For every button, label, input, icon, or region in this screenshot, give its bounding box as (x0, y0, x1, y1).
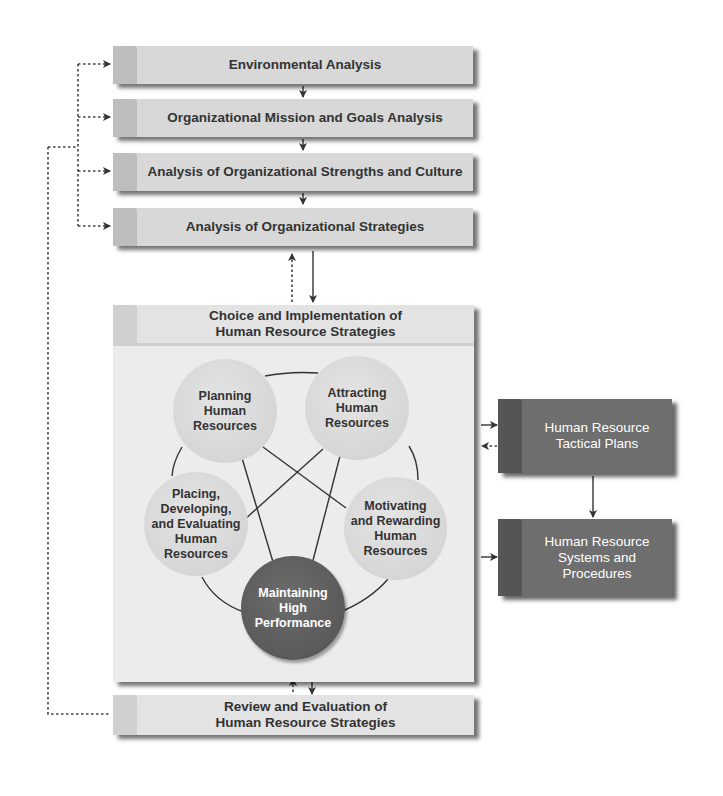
box-text: Procedures (544, 566, 649, 582)
circle-text: Maintaining (255, 586, 331, 601)
box-text: Tactical Plans (544, 436, 649, 452)
review-line1: Review and Evaluation of (215, 699, 395, 715)
circle-text: Human (351, 529, 441, 544)
circle-text: and Evaluating (152, 517, 241, 532)
circle-text: Planning (193, 389, 257, 404)
circle-text: Resources (325, 416, 389, 431)
circle-attracting-hr: Attracting Human Resources (305, 356, 409, 460)
circle-placing-developing-evaluating: Placing, Developing, and Evaluating Huma… (144, 472, 248, 576)
box-label: Human Resource Tactical Plans (522, 399, 672, 473)
circle-text: Developing, (152, 502, 241, 517)
circle-text: Human (325, 401, 389, 416)
circle-text: Performance (255, 616, 331, 631)
circle-text: Resources (152, 547, 241, 562)
circle-text: and Rewarding (351, 514, 441, 529)
circle-text: Human (152, 532, 241, 547)
circle-text: Human (193, 404, 257, 419)
circle-maintaining-high-performance: Maintaining High Performance (241, 556, 345, 660)
review-evaluation-box: Review and Evaluation of Human Resource … (113, 695, 474, 735)
box-tab (113, 695, 137, 735)
box-text: Systems and (544, 550, 649, 566)
circle-text: Resources (193, 419, 257, 434)
circle-text: Attracting (325, 386, 389, 401)
review-label: Review and Evaluation of Human Resource … (137, 695, 474, 735)
circle-motivating-rewarding: Motivating and Rewarding Human Resources (344, 477, 447, 580)
review-line2: Human Resource Strategies (215, 715, 395, 731)
box-text: Human Resource (544, 534, 649, 550)
box-label: Human Resource Systems and Procedures (522, 519, 672, 596)
box-hr-systems-procedures: Human Resource Systems and Procedures (498, 519, 672, 596)
circle-text: High (255, 601, 331, 616)
box-tab (498, 519, 522, 596)
box-tab (498, 399, 522, 473)
circle-text: Motivating (351, 499, 441, 514)
circle-planning-hr: Planning Human Resources (173, 359, 277, 463)
circle-text: Placing, (152, 487, 241, 502)
box-text: Human Resource (544, 420, 649, 436)
box-hr-tactical-plans: Human Resource Tactical Plans (498, 399, 672, 473)
circle-text: Resources (351, 544, 441, 559)
